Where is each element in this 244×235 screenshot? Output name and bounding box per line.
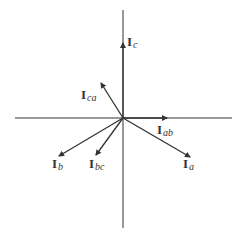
phasor-arrow-ib — [59, 118, 123, 156]
phasor-label-ibc: Ibc — [89, 156, 105, 172]
phasor-label-ic: Ic — [127, 34, 138, 50]
phasor-arrow-ica — [101, 83, 123, 118]
phasor-label-ica: Ica — [81, 87, 97, 103]
phasor-label-ia: Ia — [183, 156, 194, 172]
phasor-diagram: IcIcaIabIaIbIbc — [0, 0, 244, 235]
phasors — [59, 43, 190, 157]
phasor-label-ib: Ib — [52, 156, 63, 172]
phasor-label-iab: Iab — [157, 122, 173, 138]
phasor-arrow-ibc — [96, 118, 123, 155]
